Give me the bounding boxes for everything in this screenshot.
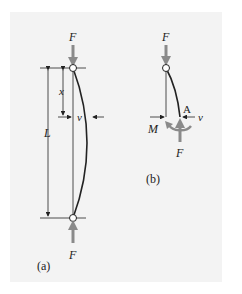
top-pin xyxy=(70,65,77,72)
caption-b: (b) xyxy=(146,172,160,186)
bottom-force-arrow xyxy=(68,220,78,243)
deflected-column xyxy=(73,68,87,218)
bottom-force-label-b: F xyxy=(175,146,184,160)
position-label: x xyxy=(58,85,64,97)
caption-a: (a) xyxy=(37,259,50,273)
point-a-label: A xyxy=(183,103,191,115)
top-force-label-b: F xyxy=(161,30,170,44)
top-force-arrow xyxy=(68,45,78,67)
buckling-column-figure: F L x v F (a) xyxy=(0,0,242,294)
panel-a: F L x v F (a) xyxy=(37,30,104,273)
length-label: L xyxy=(43,126,51,140)
bottom-force-label: F xyxy=(68,248,77,262)
moment-label: M xyxy=(147,122,159,136)
top-force-arrow-b xyxy=(161,45,171,66)
deflected-segment xyxy=(166,68,180,117)
top-pin-b xyxy=(163,65,170,72)
panel-b: F v A M F (b) xyxy=(146,30,203,186)
deflection-label-b: v xyxy=(198,111,203,123)
deflection-label: v xyxy=(77,111,82,123)
top-force-label: F xyxy=(68,30,77,44)
